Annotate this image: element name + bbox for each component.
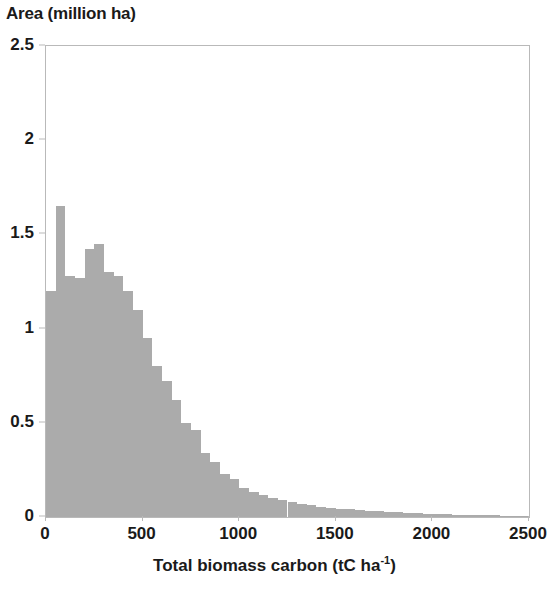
y-axis-tick-label: 1.5 — [10, 223, 34, 243]
histogram-bar — [85, 249, 95, 517]
histogram-bar — [191, 430, 201, 517]
plot-area — [45, 45, 530, 518]
y-axis-tick-label: 0.5 — [10, 412, 34, 432]
histogram-bar — [374, 511, 384, 517]
histogram-bar — [65, 276, 75, 517]
histogram-bar — [481, 515, 491, 517]
histogram-bar — [143, 338, 153, 517]
histogram-bar — [181, 423, 191, 517]
x-axis-tick-mark — [335, 516, 336, 521]
x-axis-tick-label: 1000 — [219, 524, 257, 544]
histogram-bar — [152, 366, 162, 517]
histogram-bar — [123, 291, 133, 517]
histogram-bar — [75, 278, 85, 517]
y-axis-tick-label: 2.5 — [10, 35, 34, 55]
histogram-bar — [510, 516, 520, 517]
y-axis-tick-label: 1 — [25, 318, 34, 338]
histogram-bar — [268, 498, 278, 517]
x-axis-tick-label: 2000 — [412, 524, 450, 544]
x-axis-tick-label: 2500 — [509, 524, 547, 544]
histogram-bar — [355, 510, 365, 517]
histogram-bar — [403, 513, 413, 517]
histogram-bar — [201, 453, 211, 517]
histogram-bar — [56, 206, 66, 517]
x-axis-title-close: ) — [390, 556, 396, 575]
histogram-bar — [490, 515, 500, 517]
x-axis-tick-label: 0 — [40, 524, 49, 544]
histogram-bar — [384, 512, 394, 517]
histogram-bar — [432, 514, 442, 517]
histogram-bar — [210, 462, 220, 517]
x-axis-tick-label: 1500 — [316, 524, 354, 544]
histogram-bar — [249, 492, 259, 517]
y-axis-tick-group: 00.511.522.5 — [0, 0, 41, 591]
chart-figure: Area (million ha) 00.511.522.5 050010001… — [0, 0, 549, 591]
x-axis-tick-mark — [431, 516, 432, 521]
histogram-bar — [471, 515, 481, 517]
histogram-bar — [288, 502, 298, 517]
histogram-bar — [307, 505, 317, 517]
histogram-bar — [500, 516, 510, 518]
histogram-bar — [114, 276, 124, 517]
histogram-bar — [461, 515, 471, 517]
histogram-bar — [172, 400, 182, 517]
histogram-bars — [46, 46, 529, 517]
x-axis-tick-label: 500 — [127, 524, 155, 544]
x-axis-tick-group: 05001000150020002500 — [0, 520, 549, 550]
x-axis-title-text: Total biomass carbon (tC ha — [153, 556, 380, 575]
x-axis-title-exponent: -1 — [380, 554, 390, 566]
histogram-bar — [316, 507, 326, 517]
histogram-bar — [413, 513, 423, 517]
histogram-bar — [220, 474, 230, 517]
histogram-bar — [297, 504, 307, 517]
x-axis-tick-mark — [45, 516, 46, 521]
histogram-bar — [46, 291, 56, 517]
histogram-bar — [394, 512, 404, 517]
x-axis-tick-mark — [238, 516, 239, 521]
histogram-bar — [336, 509, 346, 517]
histogram-bar — [133, 310, 143, 517]
histogram-bar — [278, 500, 288, 517]
histogram-bar — [259, 495, 269, 517]
x-axis-title: Total biomass carbon (tC ha-1) — [0, 556, 549, 576]
histogram-bar — [230, 479, 240, 517]
histogram-bar — [239, 488, 249, 517]
histogram-bar — [94, 244, 104, 517]
histogram-bar — [162, 381, 172, 517]
x-axis-tick-mark — [142, 516, 143, 521]
histogram-bar — [365, 511, 375, 517]
histogram-bar — [104, 272, 114, 517]
histogram-bar — [452, 515, 462, 517]
x-axis-tick-mark — [528, 516, 529, 521]
y-axis-tick-label: 2 — [25, 129, 34, 149]
histogram-bar — [442, 514, 452, 517]
histogram-bar — [345, 509, 355, 517]
